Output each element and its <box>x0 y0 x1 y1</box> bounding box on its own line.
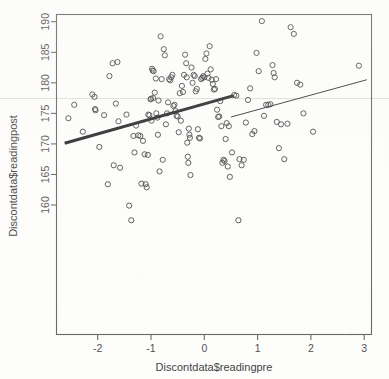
data-point <box>176 130 181 135</box>
y-tick-label-160: 160 <box>39 196 51 214</box>
x-tick-label-2: 2 <box>308 342 314 354</box>
data-point <box>140 138 145 143</box>
data-point <box>159 77 164 82</box>
data-point <box>66 116 71 121</box>
x-tick-label-0: 0 <box>201 342 207 354</box>
left-segment-regression-line <box>65 96 234 144</box>
data-point <box>177 91 182 96</box>
data-point <box>129 218 134 223</box>
y-tick-label-165: 165 <box>39 166 51 184</box>
data-point <box>113 101 118 106</box>
x-tick-label-neg2: -2 <box>93 342 102 354</box>
data-point <box>117 165 122 170</box>
data-point <box>356 63 361 68</box>
y-tick-labels: 190 185 180 175 170 165 160 <box>39 13 51 214</box>
data-point <box>162 53 167 58</box>
data-point <box>259 18 264 23</box>
data-point <box>214 107 219 112</box>
data-point <box>105 182 110 187</box>
data-point <box>185 154 190 159</box>
data-point <box>115 59 120 64</box>
data-point <box>97 144 102 149</box>
data-point <box>310 129 315 134</box>
data-point <box>155 132 160 137</box>
y-axis-title: Discontdata$readingpost <box>7 115 19 237</box>
data-point <box>192 73 197 78</box>
y-tick-label-170: 170 <box>39 135 51 153</box>
data-point <box>186 160 191 165</box>
data-point <box>236 218 241 223</box>
data-point <box>161 47 166 52</box>
data-point <box>163 122 168 127</box>
data-point <box>190 80 195 85</box>
data-point <box>276 146 281 151</box>
data-point <box>254 50 259 55</box>
data-point <box>102 113 107 118</box>
data-point <box>285 121 290 126</box>
data-point <box>80 129 85 134</box>
data-point <box>225 164 230 169</box>
data-point <box>160 157 165 162</box>
data-point <box>184 61 189 66</box>
x-tick-label-neg1: -1 <box>146 342 155 354</box>
data-point <box>157 169 162 174</box>
data-point <box>270 62 275 67</box>
data-point <box>227 174 232 179</box>
data-points-layer <box>66 18 362 222</box>
data-point <box>127 203 132 208</box>
data-point <box>223 136 228 141</box>
y-tick-label-180: 180 <box>39 74 51 92</box>
data-point <box>165 100 170 105</box>
data-point <box>188 172 193 177</box>
scatterplot-screenshot: 190 185 180 175 170 165 160 -2 -1 0 1 2 … <box>0 0 389 379</box>
data-point <box>282 157 287 162</box>
data-point <box>301 111 306 116</box>
data-point <box>203 56 208 61</box>
x-tick-label-1: 1 <box>255 342 261 354</box>
data-point <box>219 124 224 129</box>
data-point <box>107 73 112 78</box>
y-tick-label-175: 175 <box>39 104 51 122</box>
data-point <box>168 78 173 83</box>
data-point <box>178 118 183 123</box>
scatter-plot: 190 185 180 175 170 165 160 -2 -1 0 1 2 … <box>0 0 389 379</box>
y-tick-label-190: 190 <box>39 13 51 31</box>
data-point <box>187 135 192 140</box>
data-point <box>145 152 150 157</box>
data-point <box>239 163 244 168</box>
data-point <box>172 102 177 107</box>
data-point <box>116 119 121 124</box>
data-point <box>132 150 137 155</box>
data-point <box>185 140 190 145</box>
data-point <box>179 83 184 88</box>
data-point <box>183 52 188 57</box>
data-point <box>111 163 116 168</box>
data-point <box>278 122 283 127</box>
data-point <box>152 90 157 95</box>
data-point <box>72 102 77 107</box>
data-point <box>288 25 293 30</box>
plot-frame <box>57 15 372 335</box>
y-axis-ticks <box>51 22 57 205</box>
y-tick-label-185: 185 <box>39 43 51 61</box>
x-tick-label-3: 3 <box>361 342 367 354</box>
data-point <box>208 67 213 72</box>
data-point <box>195 127 200 132</box>
x-axis-ticks <box>98 335 365 341</box>
data-point <box>243 120 248 125</box>
x-axis-title: Discontdata$readingpre <box>156 361 273 373</box>
data-point <box>207 44 212 49</box>
data-point <box>189 65 194 70</box>
data-point <box>124 112 129 117</box>
data-point <box>204 51 209 56</box>
data-point <box>229 150 234 155</box>
data-point <box>153 76 158 81</box>
data-point <box>144 185 149 190</box>
data-point <box>186 126 191 131</box>
data-point <box>180 89 185 94</box>
data-point <box>248 86 253 91</box>
data-point <box>256 69 261 74</box>
data-point <box>261 113 266 118</box>
data-point <box>158 34 163 39</box>
data-point <box>291 31 296 36</box>
